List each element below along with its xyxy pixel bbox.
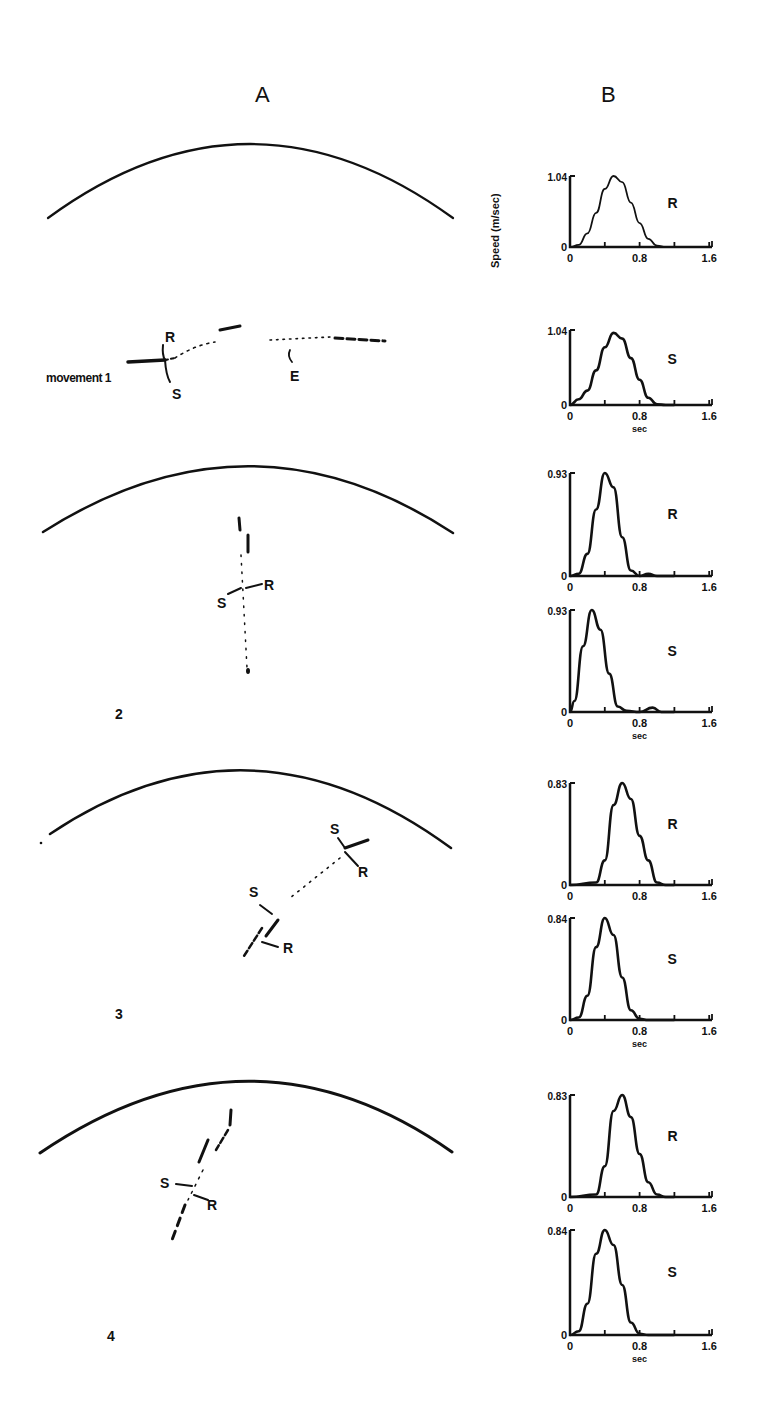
chart-axes: [570, 330, 712, 405]
x-tick-label: 0.8: [632, 890, 647, 902]
annotation-s: S: [160, 1175, 169, 1191]
x-tick-label: 0: [567, 890, 573, 902]
series-label: S: [667, 643, 676, 659]
chart-axes: [570, 176, 712, 247]
series-label: R: [667, 1128, 677, 1144]
x-tick-label: 1.6: [702, 717, 717, 729]
annotation-s: S: [172, 386, 181, 402]
speed-curve: [570, 610, 674, 712]
speed-chart-movement-1-r: 1.04000.81.6R: [548, 172, 717, 264]
speed-chart-movement-2-r: 0.93000.81.6R: [548, 469, 717, 593]
speed-curve: [570, 333, 674, 405]
series-label: S: [667, 1264, 676, 1280]
chart-axes: [570, 783, 712, 885]
y-max-label: 0.84: [548, 914, 568, 925]
x-tick-label: 0: [567, 717, 573, 729]
x-tick-label: 0: [567, 1202, 573, 1214]
speed-chart-movement-4-s: 0.84000.81.6secS: [548, 1226, 717, 1364]
speed-chart-movement-3-s: 0.84000.81.6secS: [548, 914, 717, 1049]
x-tick-label: 0: [567, 252, 573, 264]
trajectory-movement-4: [172, 1110, 231, 1240]
x-tick-label: 0.8: [632, 1202, 647, 1214]
x-tick-label: 0: [567, 581, 573, 593]
x-axis-unit: sec: [632, 424, 647, 434]
x-tick-label: 1.6: [702, 1340, 717, 1352]
y-max-label: 0.83: [548, 779, 568, 790]
target-arc-1: [48, 144, 453, 218]
annotation-r: R: [165, 329, 175, 345]
annotation-s: S: [330, 821, 339, 837]
y-max-label: 0.93: [548, 469, 568, 480]
speed-curve: [570, 783, 674, 885]
x-tick-label: 1.6: [702, 581, 717, 593]
series-label: R: [667, 816, 677, 832]
x-tick-label: 0: [567, 1025, 573, 1037]
series-label: S: [667, 351, 676, 367]
x-tick-label: 0: [567, 410, 573, 422]
y-max-label: 0.93: [548, 606, 568, 617]
speed-curve: [570, 1095, 674, 1197]
target-arc-2: [43, 466, 453, 533]
speed-chart-movement-3-r: 0.83000.81.6R: [548, 779, 717, 902]
trajectory-movement-2: [228, 518, 262, 674]
x-tick-label: 1.6: [702, 410, 717, 422]
annotation-r: R: [283, 940, 293, 956]
x-axis-unit: sec: [632, 731, 647, 741]
speed-chart-movement-2-s: 0.93000.81.6secS: [548, 606, 717, 741]
x-axis-unit: sec: [632, 1039, 647, 1049]
chart-axes: [570, 1095, 712, 1197]
y-max-label: 0.83: [548, 1091, 568, 1102]
speed-curve: [570, 918, 674, 1020]
annotation-r: R: [358, 864, 368, 880]
x-tick-label: 1.6: [702, 252, 717, 264]
chart-axes: [570, 610, 712, 712]
annotation-s: S: [217, 595, 226, 611]
annotation-s: S: [249, 884, 258, 900]
speed-curve: [570, 1230, 674, 1335]
x-axis-unit: sec: [632, 1354, 647, 1364]
series-label: R: [667, 195, 677, 211]
x-tick-label: 1.6: [702, 1025, 717, 1037]
target-arc-4: [40, 1081, 452, 1153]
x-tick-label: 0.8: [632, 410, 647, 422]
x-tick-label: 0.8: [632, 717, 647, 729]
annotation-e: E: [290, 368, 299, 384]
series-label: R: [667, 506, 677, 522]
x-tick-label: 1.6: [702, 1202, 717, 1214]
panel-b-speed-profiles: 1.04000.81.6R1.04000.81.6secS0.93000.81.…: [548, 172, 717, 1364]
y-max-label: 1.04: [548, 172, 568, 183]
x-tick-label: 0: [567, 1340, 573, 1352]
trajectory-movement-3: [244, 838, 368, 956]
x-tick-label: 0.8: [632, 581, 647, 593]
y-axis-label: Speed (m/sec): [489, 193, 501, 268]
annotation-r: R: [264, 577, 274, 593]
target-arc-3: [50, 770, 451, 848]
panel-a-trajectories: [40, 144, 453, 1240]
x-tick-label: 0.8: [632, 252, 647, 264]
speed-chart-movement-1-s: 1.04000.81.6secS: [548, 326, 717, 434]
speed-curve: [570, 473, 674, 576]
speed-curve: [570, 176, 674, 247]
figure-canvas: R S E S R S R S R S R Speed (m/sec) 1.04…: [0, 0, 757, 1427]
y-max-label: 0.84: [548, 1226, 568, 1237]
series-label: S: [667, 951, 676, 967]
speed-chart-movement-4-r: 0.83000.81.6R: [548, 1091, 717, 1214]
y-max-label: 1.04: [548, 326, 568, 337]
annotation-r: R: [207, 1197, 217, 1213]
x-tick-label: 0.8: [632, 1340, 647, 1352]
x-tick-label: 0.8: [632, 1025, 647, 1037]
x-tick-label: 1.6: [702, 890, 717, 902]
